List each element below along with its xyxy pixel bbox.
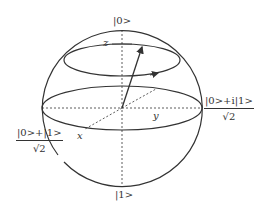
- plus-i-denominator: √2: [223, 109, 236, 122]
- label-ket-0: |0>: [113, 16, 131, 26]
- state-vector-arrow: [122, 47, 142, 108]
- plus-i-numerator: |0>+i|1>: [204, 95, 254, 109]
- x-axis-line: [85, 108, 122, 129]
- plus-numerator: |0>+|1>: [16, 127, 63, 141]
- label-y-axis: y: [153, 111, 159, 121]
- label-plus-state: |0>+|1> √2: [16, 127, 63, 154]
- label-plus-i-state: |0>+i|1> √2: [204, 95, 254, 122]
- plus-denominator: √2: [33, 141, 46, 154]
- label-x-axis: x: [77, 131, 83, 141]
- label-z-axis: z: [103, 38, 108, 48]
- label-ket-1: |1>: [115, 190, 133, 200]
